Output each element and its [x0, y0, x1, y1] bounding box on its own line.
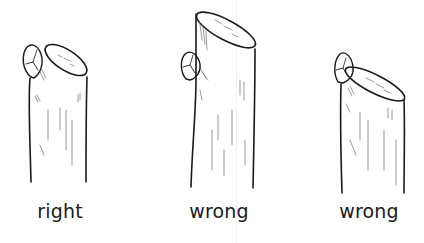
cut-surface: [40, 39, 91, 82]
stem-outline-left: [191, 14, 196, 187]
stem-outline-left: [341, 84, 342, 193]
stem-outline-right: [253, 49, 255, 188]
label-right: right: [37, 200, 83, 222]
label-wrong-high: wrong: [189, 200, 249, 222]
stem-right-cut: [23, 39, 91, 182]
cut-surface: [342, 61, 409, 107]
stem-wrong-cut-close: [335, 53, 409, 193]
bud-icon: [335, 53, 353, 83]
cut-surface: [192, 6, 260, 55]
stem-outline-left: [29, 78, 31, 182]
stem-wrong-cut-high: [181, 6, 259, 188]
stem-outline-right: [86, 77, 87, 182]
bud-icon: [23, 45, 42, 78]
label-wrong-close: wrong: [339, 200, 399, 222]
